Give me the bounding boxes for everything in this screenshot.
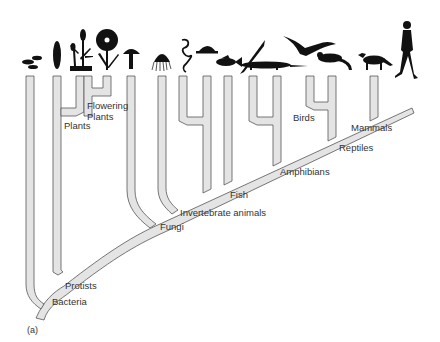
human-icon	[395, 21, 418, 79]
protists-branch	[53, 76, 63, 275]
jellyfish-icon	[152, 54, 171, 71]
label-invertebrate-animals: Invertebrate animals	[180, 207, 266, 218]
worm-icon	[182, 40, 191, 72]
label-fish: Fish	[230, 189, 248, 200]
fish-icon	[216, 55, 242, 67]
label-plants: Plants	[64, 120, 90, 131]
salamander-icon	[241, 62, 308, 71]
label-mammals: Mammals	[351, 122, 392, 133]
invertebrate-branch-1	[158, 76, 178, 214]
lizard-icon	[240, 40, 265, 74]
amphibian-branch	[249, 76, 281, 166]
invertebrate-branch-2	[179, 76, 211, 193]
protist-icon	[53, 41, 61, 69]
label-bacteria: Bacteria	[52, 296, 87, 307]
bacteria-icon	[22, 56, 42, 69]
fungi-branch	[127, 76, 156, 228]
label-fungi: Fungi	[160, 221, 184, 232]
label-protists: Protists	[65, 280, 97, 291]
reptile-icon	[317, 52, 352, 70]
mammals-branch	[370, 76, 378, 121]
panel-label: (a)	[27, 325, 38, 336]
label-reptiles: Reptiles	[339, 142, 373, 153]
label-birds: Birds	[293, 112, 315, 123]
moss-plant-icon	[70, 29, 93, 71]
bacteria-branch	[26, 76, 44, 309]
mushroom-icon	[123, 49, 140, 69]
snail-icon	[196, 46, 218, 54]
fish-branch	[224, 76, 232, 185]
flower-icon	[96, 29, 119, 70]
label-flowering-plants-line2: Plants	[87, 111, 113, 122]
label-amphibians: Amphibians	[280, 166, 330, 177]
label-flowering-plants-line1: Flowering	[87, 100, 128, 111]
birds-branch	[306, 76, 336, 141]
wolf-icon	[358, 53, 393, 70]
bird-icon	[283, 36, 336, 56]
plants-branch	[61, 76, 84, 116]
